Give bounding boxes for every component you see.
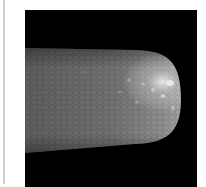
micrograph-image — [25, 10, 197, 187]
left-border-rule — [3, 0, 5, 184]
specimen-illustration — [25, 10, 197, 187]
page — [0, 0, 206, 187]
